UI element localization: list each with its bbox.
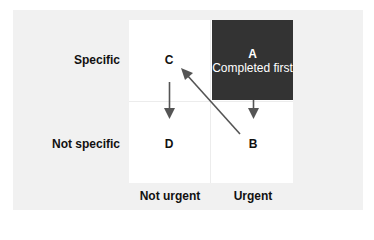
quadrant-a-caption: Completed first [212, 61, 293, 75]
quadrant-c-letter: C [159, 53, 179, 67]
row-label-specific: Specific [20, 53, 120, 67]
column-label-not-urgent: Not urgent [130, 189, 210, 203]
column-label-urgent: Urgent [213, 189, 293, 203]
quadrant-b-letter: B [243, 137, 263, 151]
row-label-not-specific: Not specific [20, 137, 120, 151]
quadrant-d-letter: D [159, 137, 179, 151]
quadrant-a-letter: A [248, 47, 257, 61]
quadrant-a-highlight: A Completed first [212, 20, 293, 100]
row-divider [129, 101, 293, 102]
